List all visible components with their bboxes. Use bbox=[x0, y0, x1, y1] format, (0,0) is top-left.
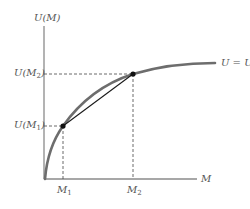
chord-line bbox=[63, 74, 133, 126]
diagram-graphics bbox=[0, 0, 250, 209]
point-m2 bbox=[130, 71, 135, 76]
y-tick-u-m2: U(M2) bbox=[14, 68, 45, 80]
utility-diagram: U(M) U = U(M) M U(M2) U(M1) M1 M2 bbox=[0, 0, 250, 209]
x-tick-m2: M2 bbox=[127, 185, 142, 197]
curve-label: U = U(M) bbox=[221, 58, 250, 68]
y-axis-label: U(M) bbox=[34, 13, 60, 23]
y-tick-u-m1: U(M1) bbox=[14, 120, 45, 132]
x-axis-label: M bbox=[201, 174, 211, 184]
x-tick-m1: M1 bbox=[57, 185, 72, 197]
point-m1 bbox=[60, 123, 65, 128]
